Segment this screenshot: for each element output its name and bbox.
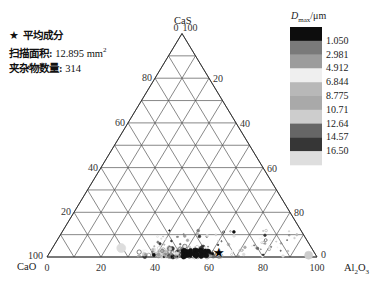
legend-label: 8.775	[326, 91, 349, 101]
legend-title-sub: max	[298, 16, 310, 24]
legend-label: 1.050	[326, 36, 349, 46]
svg-text:80: 80	[142, 72, 152, 83]
svg-text:60: 60	[267, 163, 277, 174]
svg-text:40: 40	[150, 262, 160, 273]
svg-text:60: 60	[204, 262, 214, 273]
legend-label: 10.71	[326, 105, 349, 115]
svg-text:40: 40	[240, 118, 250, 129]
axis-label-cas: CaS	[174, 15, 192, 26]
legend-label: 4.912	[326, 63, 349, 73]
legend-title: Dmax/μm	[291, 10, 326, 24]
star-icon: ★	[9, 29, 19, 41]
legend-label: 12.64	[326, 119, 349, 129]
area-unit: mm	[87, 48, 103, 59]
mean-point-star: ★	[213, 245, 225, 260]
count-label: 夹杂物数量:	[9, 63, 63, 74]
svg-text:20: 20	[61, 206, 71, 217]
area-label: 扫描面积:	[9, 48, 53, 59]
svg-text:100: 100	[28, 250, 43, 261]
svg-text:40: 40	[88, 162, 98, 173]
svg-text:100: 100	[310, 262, 325, 273]
svg-text:60: 60	[115, 117, 125, 128]
legend-label: 16.50	[326, 146, 349, 156]
count-value: 314	[65, 63, 81, 74]
svg-text:80: 80	[258, 262, 268, 273]
legend-title-unit: /μm	[310, 10, 326, 21]
mean-label: 平均成分	[23, 30, 63, 41]
svg-text:0: 0	[321, 249, 326, 260]
area-value: 12.895	[55, 48, 84, 59]
legend-swatches	[290, 27, 322, 165]
svg-text:20: 20	[213, 73, 223, 84]
axis-label-cao: CaO	[17, 261, 37, 272]
legend-label: 14.57	[326, 132, 349, 142]
mean-label-row: ★平均成分	[9, 28, 106, 43]
svg-text:20: 20	[96, 262, 106, 273]
legend-label: 2.981	[326, 50, 349, 60]
area-sup: 2	[103, 46, 107, 54]
svg-text:80: 80	[294, 207, 304, 218]
legend-label: 6.844	[326, 77, 349, 87]
svg-text:0: 0	[45, 262, 50, 273]
count-row: 夹杂物数量: 314	[9, 61, 106, 76]
axis-label-al2o3: Al2O3	[344, 262, 370, 276]
info-panel: ★平均成分 扫描面积: 12.895 mm2 夹杂物数量: 314	[9, 28, 106, 76]
area-row: 扫描面积: 12.895 mm2	[9, 43, 106, 61]
